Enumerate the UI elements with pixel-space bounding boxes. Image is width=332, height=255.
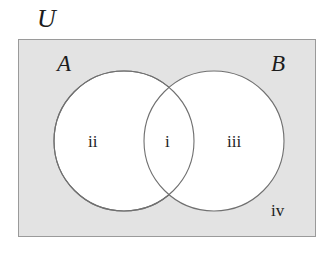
set-b-label: B <box>271 52 285 75</box>
region-label-ii: ii <box>88 133 97 150</box>
set-a-label: A <box>57 52 71 75</box>
region-label-i: i <box>165 133 170 150</box>
region-label-iv: iv <box>271 202 284 219</box>
region-label-iii: iii <box>227 133 241 150</box>
venn-diagram-figure: U A B ii i iii iv <box>0 0 332 255</box>
